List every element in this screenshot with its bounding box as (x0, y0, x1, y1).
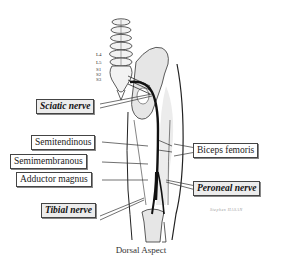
thigh-outline-right (172, 64, 183, 240)
label-adductor-magnus: Adductor magnus (16, 172, 92, 187)
diagram-caption: Dorsal Aspect (0, 245, 282, 255)
leg-illustration (0, 0, 282, 268)
label-sciatic-nerve: Sciatic nerve (36, 99, 94, 114)
vertebra-label-l4: L4 (96, 52, 102, 58)
vertebra-label-s3: S3 (96, 77, 101, 83)
label-biceps-femoris: Biceps femoris (193, 143, 258, 158)
label-semitendinous: Semitendinous (31, 135, 95, 150)
label-semimembranous: Semimembranous (10, 154, 87, 169)
anatomy-diagram: L4 L5 S1 S2 S3 Sciatic nerve Semitendino… (0, 0, 282, 268)
lumbar-spine (110, 19, 133, 100)
thigh-outline-left (127, 112, 132, 240)
label-tibial-nerve: Tibial nerve (41, 203, 96, 218)
artist-signature: Stephen HASAN (210, 207, 243, 212)
vertebra-label-l5: L5 (96, 60, 102, 66)
label-peroneal-nerve: Peroneal nerve (193, 181, 260, 196)
